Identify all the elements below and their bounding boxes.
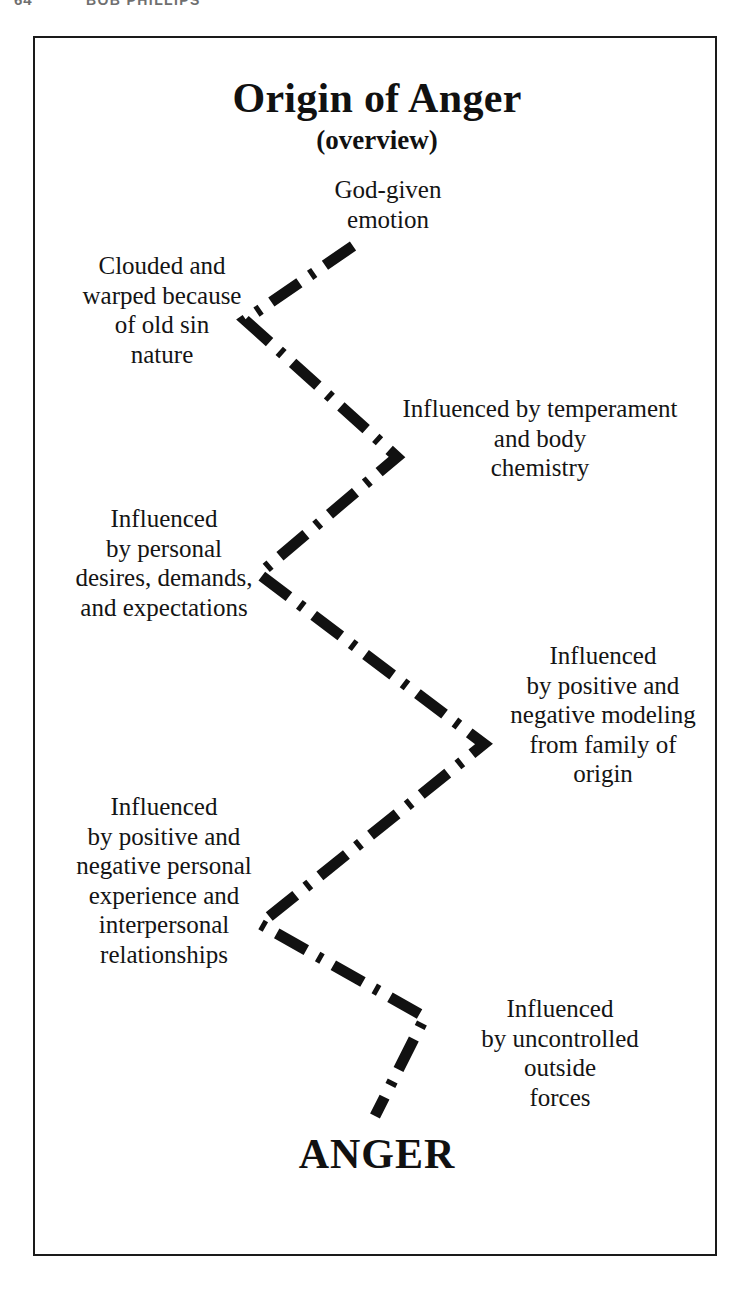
node-label-line: nature [51,340,273,370]
figure-frame: Origin of Anger (overview) God-givenemot… [33,36,717,1256]
node-label-line: interpersonal [49,910,279,940]
node-label-line: by positive and [495,671,711,701]
node-label-line: Influenced [495,641,711,671]
node-label-line: outside [449,1053,671,1083]
node-label-line: God-given [283,175,493,205]
node-label-line: Influenced by temperament [375,394,705,424]
node-label-god-given: God-givenemotion [283,175,493,234]
figure-subtitle: (overview) [35,126,719,154]
figure-title: Origin of Anger [35,76,719,120]
node-label-line: relationships [49,940,279,970]
node-label-line: by positive and [49,822,279,852]
node-label-line: warped because [51,281,273,311]
node-label-line: forces [449,1083,671,1113]
node-label-line: and expectations [55,593,273,623]
page-header: 64 BOB PHILLIPS [0,0,750,9]
node-label-line: negative personal [49,851,279,881]
running-title: BOB PHILLIPS [86,0,201,8]
page-number: 64 [14,0,33,8]
node-label-line: Clouded and [51,251,273,281]
node-label-line: negative modeling [495,700,711,730]
node-label-line: chemistry [375,453,705,483]
node-label-line: of old sin [51,310,273,340]
node-label-modeling: Influencedby positive andnegative modeli… [495,641,711,789]
node-label-outside-forces: Influencedby uncontrolledoutsideforces [449,994,671,1112]
node-label-line: by uncontrolled [449,1024,671,1054]
node-label-line: and body [375,424,705,454]
node-label-line: Influenced [449,994,671,1024]
node-label-line: Influenced [55,504,273,534]
node-label-line: desires, demands, [55,563,273,593]
node-label-line: by personal [55,534,273,564]
node-label-line: experience and [49,881,279,911]
zigzag-polyline [245,246,484,1116]
node-label-desires: Influencedby personaldesires, demands,an… [55,504,273,622]
node-label-line: emotion [283,205,493,235]
outcome-label-anger: ANGER [35,1130,719,1178]
node-label-temperament: Influenced by temperamentand bodychemist… [375,394,705,483]
node-label-line: Influenced [49,792,279,822]
node-label-clouded: Clouded andwarped becauseof old sinnatur… [51,251,273,369]
node-label-experience: Influencedby positive andnegative person… [49,792,279,969]
node-label-line: from family of [495,730,711,760]
node-label-line: origin [495,759,711,789]
